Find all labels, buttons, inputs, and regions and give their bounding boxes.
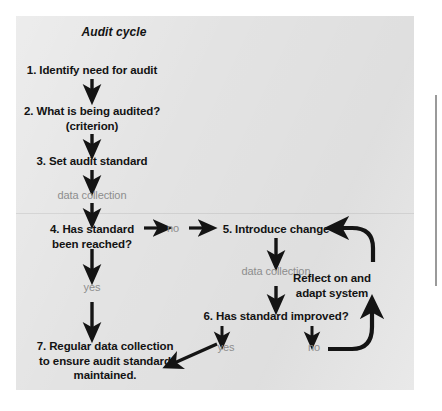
figure-canvas: Audit cycle 1. Identify need for audit 2…: [0, 0, 442, 411]
node-step-6: 6. Has standard improved?: [203, 309, 348, 324]
node-step-5: 5. Introduce change: [223, 222, 330, 237]
node-step-7: 7. Regular data collection to ensure aud…: [37, 339, 174, 383]
figure-title: Audit cycle: [81, 25, 146, 40]
page-margin-rule: [435, 95, 437, 286]
label-no-step6: no: [308, 341, 320, 354]
scan-seam-line: [16, 213, 414, 214]
node-step-1: 1. Identify need for audit: [27, 63, 157, 78]
label-yes-step6: yes: [218, 341, 235, 354]
label-data-collection-1: data collection: [58, 189, 127, 202]
node-step-4: 4. Has standard been reached?: [50, 222, 134, 251]
node-step-2: 2. What is being audited? (criterion): [24, 104, 160, 133]
label-no-step4: no: [167, 222, 179, 235]
label-yes-step4: yes: [84, 281, 101, 294]
node-step-3: 3. Set audit standard: [36, 154, 147, 169]
node-reflect-adapt: Reflect on and adapt system: [293, 271, 371, 301]
